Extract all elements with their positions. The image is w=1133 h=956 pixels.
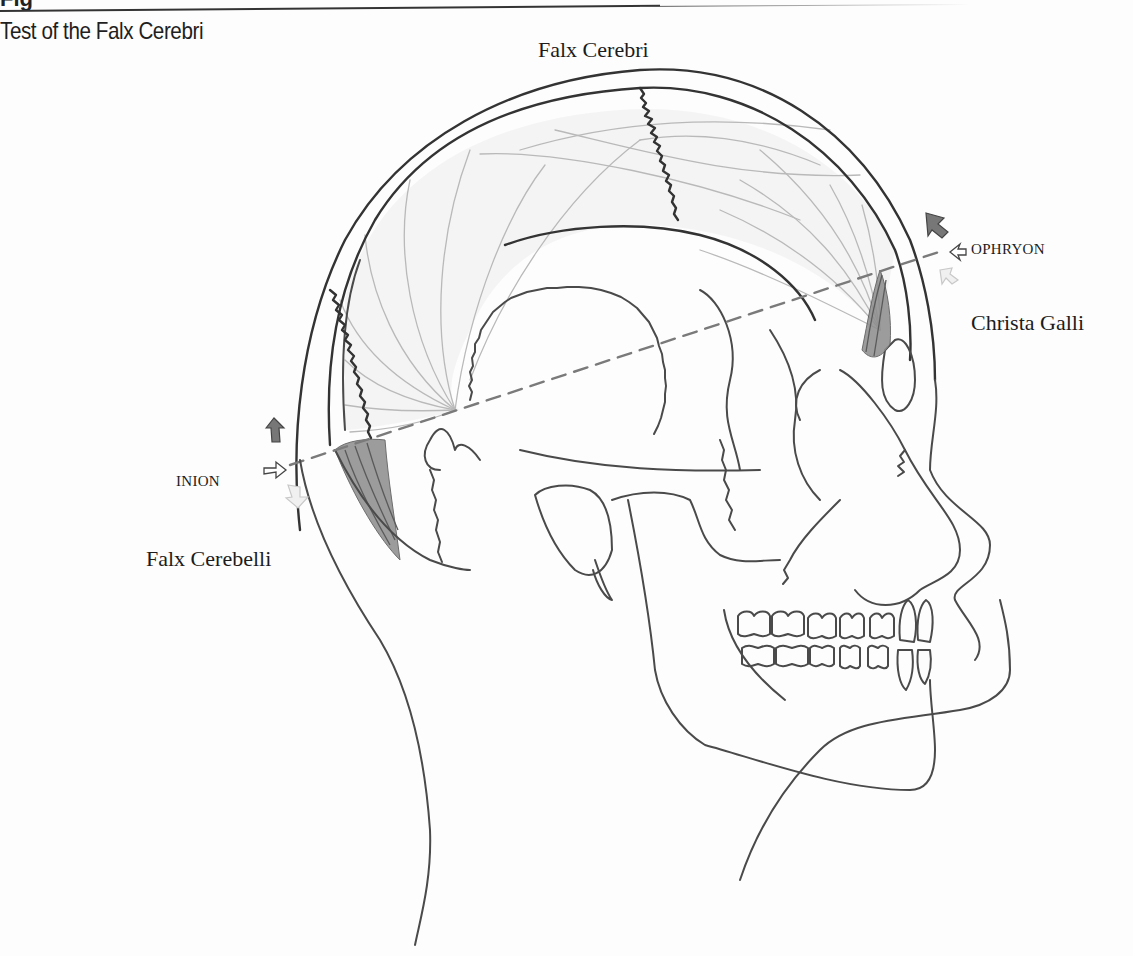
falx-cerebri-fibers — [340, 109, 895, 432]
arrow-up-icon — [926, 213, 948, 238]
facial-skeleton — [783, 339, 990, 660]
label-falx-cerebri: Falx Cerebri — [538, 37, 649, 62]
arrow-in-icon — [264, 462, 286, 478]
arrow-down-icon — [940, 268, 958, 284]
arrow-down-icon — [286, 485, 308, 508]
neck-outline — [300, 460, 1010, 945]
arrow-in-icon — [950, 244, 966, 260]
arrow-up-icon — [266, 418, 284, 442]
book-page: Fig Test of the Falx Cerebri — [0, 0, 1133, 956]
ophryon-arrows — [926, 213, 966, 284]
label-christa-galli: Christa Galli — [971, 310, 1084, 335]
label-falx-cerebelli: Falx Cerebelli — [146, 546, 271, 571]
teeth — [738, 600, 933, 690]
head-skull-diagram: Falx Cerebri OPHRYON Christa Galli INION… — [0, 0, 1133, 956]
label-ophryon: OPHRYON — [971, 241, 1045, 257]
label-inion: INION — [176, 473, 220, 489]
